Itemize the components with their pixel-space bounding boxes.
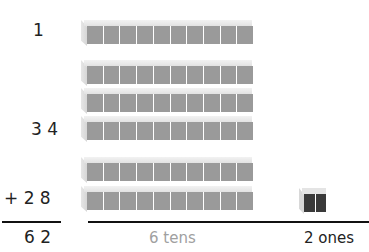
carry-digit: 1 [33,20,44,40]
tens-label: 6 tens [149,229,196,247]
ones-label: 2 ones [304,229,354,247]
addend-2: + 2 8 [4,188,51,208]
ten-rod [81,157,253,183]
ones-cubes [299,188,327,214]
ten-rod [81,116,253,142]
sum-line [2,221,61,223]
ten-rod [81,60,253,86]
addend-1: 3 4 [31,119,58,139]
model-line [88,221,369,223]
ten-rod [81,186,253,212]
sum: 6 2 [24,227,51,247]
ten-rod [81,20,253,46]
ten-rod [81,88,253,114]
